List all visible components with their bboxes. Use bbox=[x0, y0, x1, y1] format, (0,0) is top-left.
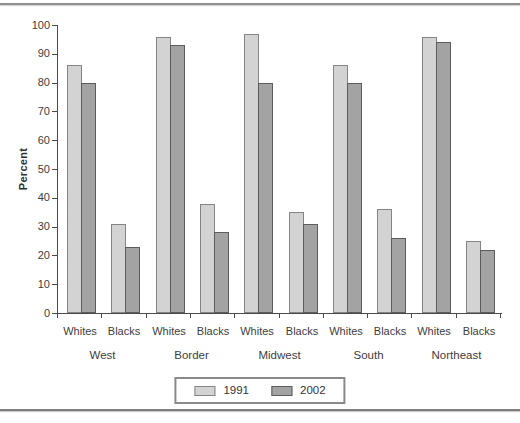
x-region-label-midwest: Midwest bbox=[235, 349, 324, 361]
y-tick-label: 80 bbox=[20, 76, 50, 89]
bar-2002-midwest-blacks bbox=[303, 224, 318, 313]
x-tick bbox=[57, 314, 58, 318]
x-tick bbox=[279, 314, 280, 318]
bar-chart: Percent 0102030405060708090100WhitesBlac… bbox=[0, 0, 520, 423]
bar-1991-northeast-blacks bbox=[466, 241, 481, 313]
bar-1991-midwest-whites bbox=[244, 34, 259, 313]
y-tick-label: 90 bbox=[20, 47, 50, 60]
y-tick-label: 40 bbox=[20, 191, 50, 204]
legend-label: 1991 bbox=[223, 385, 249, 396]
bar-1991-west-blacks bbox=[111, 224, 126, 313]
x-region-label-border: Border bbox=[147, 349, 236, 361]
y-tick bbox=[52, 140, 57, 141]
bar-1991-northeast-whites bbox=[422, 37, 437, 313]
legend-label: 2002 bbox=[300, 385, 326, 396]
bar-1991-border-whites bbox=[156, 37, 171, 313]
bar-1991-south-blacks bbox=[377, 209, 392, 313]
y-tick bbox=[52, 25, 57, 26]
x-group-label: Blacks bbox=[191, 325, 235, 337]
x-group-label: Whites bbox=[235, 325, 279, 337]
y-axis-line bbox=[57, 25, 58, 314]
bar-2002-northeast-whites bbox=[436, 42, 451, 313]
y-tick-label: 10 bbox=[20, 278, 50, 291]
x-group-label: Blacks bbox=[368, 325, 412, 337]
y-tick bbox=[52, 255, 57, 256]
y-tick bbox=[52, 169, 57, 170]
bar-2002-west-whites bbox=[81, 83, 96, 313]
x-tick bbox=[190, 314, 191, 318]
figure-page: Percent 0102030405060708090100WhitesBlac… bbox=[0, 0, 520, 423]
x-group-label: Whites bbox=[58, 325, 102, 337]
y-tick-label: 100 bbox=[20, 19, 50, 32]
x-tick bbox=[234, 314, 235, 318]
y-tick bbox=[52, 227, 57, 228]
x-group-label: Whites bbox=[147, 325, 191, 337]
bottom-divider-line bbox=[0, 409, 520, 411]
bar-2002-border-whites bbox=[170, 45, 185, 313]
x-tick bbox=[146, 314, 147, 318]
bar-1991-midwest-blacks bbox=[289, 212, 304, 313]
x-group-label: Whites bbox=[324, 325, 368, 337]
x-tick bbox=[101, 314, 102, 318]
y-tick bbox=[52, 54, 57, 55]
x-region-label-west: West bbox=[58, 349, 147, 361]
bar-2002-border-blacks bbox=[214, 232, 229, 313]
x-region-label-northeast: Northeast bbox=[412, 349, 501, 361]
bar-2002-west-blacks bbox=[125, 247, 140, 313]
y-tick-label: 0 bbox=[20, 307, 50, 320]
y-tick-label: 30 bbox=[20, 220, 50, 233]
x-tick bbox=[456, 314, 457, 318]
x-tick bbox=[500, 314, 501, 318]
bar-1991-west-whites bbox=[67, 65, 82, 313]
bar-2002-south-blacks bbox=[391, 238, 406, 313]
legend-swatch-1991 bbox=[194, 386, 215, 396]
y-tick-label: 20 bbox=[20, 249, 50, 262]
x-group-label: Whites bbox=[412, 325, 456, 337]
y-tick-label: 50 bbox=[20, 163, 50, 176]
x-group-label: Blacks bbox=[457, 325, 501, 337]
x-group-label: Blacks bbox=[102, 325, 146, 337]
x-tick bbox=[411, 314, 412, 318]
bar-1991-border-blacks bbox=[200, 204, 215, 313]
x-region-label-south: South bbox=[324, 349, 413, 361]
x-group-label: Blacks bbox=[280, 325, 324, 337]
y-tick bbox=[52, 198, 57, 199]
bar-2002-northeast-blacks bbox=[480, 250, 495, 313]
bar-2002-midwest-whites bbox=[258, 83, 273, 313]
chart-legend: 19912002 bbox=[174, 377, 345, 404]
x-tick bbox=[367, 314, 368, 318]
legend-entry-2002: 2002 bbox=[271, 385, 326, 396]
bar-2002-south-whites bbox=[347, 83, 362, 313]
x-tick bbox=[323, 314, 324, 318]
legend-entry-1991: 1991 bbox=[194, 385, 249, 396]
y-tick bbox=[52, 111, 57, 112]
y-tick-label: 60 bbox=[20, 134, 50, 147]
y-tick bbox=[52, 83, 57, 84]
y-tick bbox=[52, 284, 57, 285]
legend-swatch-2002 bbox=[271, 386, 292, 396]
bar-1991-south-whites bbox=[333, 65, 348, 313]
y-tick-label: 70 bbox=[20, 105, 50, 118]
